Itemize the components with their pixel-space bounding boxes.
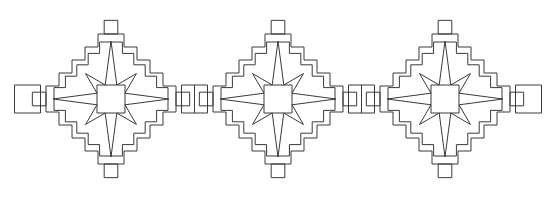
- border-pattern-canvas: [0, 0, 556, 199]
- canvas-background: [0, 0, 556, 199]
- pattern-artboard: [0, 0, 556, 199]
